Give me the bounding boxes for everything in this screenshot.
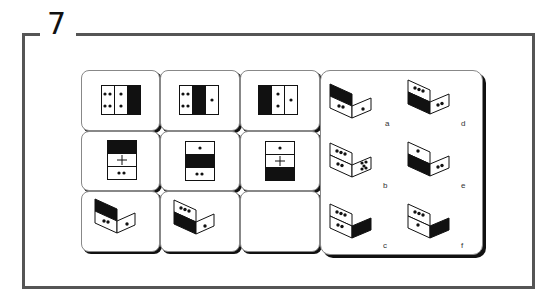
frame-top-right xyxy=(76,33,535,36)
option-b[interactable]: b xyxy=(325,135,405,195)
frame-left xyxy=(22,33,25,289)
folded-figure xyxy=(403,75,483,135)
option-label: e xyxy=(461,181,465,190)
answer-options-panel: a d b xyxy=(320,70,483,255)
option-f[interactable]: f xyxy=(403,193,483,253)
folded-figure xyxy=(325,135,405,195)
matrix-cell-r3c2 xyxy=(160,191,240,252)
option-a[interactable]: a xyxy=(325,75,405,135)
matrix-cell-r1c1 xyxy=(81,70,160,131)
frame-right xyxy=(532,33,535,289)
question-number: 7 xyxy=(47,8,66,40)
matrix-cell-r2c2 xyxy=(160,131,240,191)
option-label: f xyxy=(461,241,463,250)
option-c[interactable]: c xyxy=(325,193,405,253)
option-d[interactable]: d xyxy=(403,75,483,135)
strip-horizontal-figure xyxy=(241,71,321,132)
option-label: c xyxy=(383,241,387,250)
option-label: b xyxy=(383,181,387,190)
strip-vertical-figure xyxy=(161,132,241,192)
folded-figure xyxy=(325,75,405,135)
matrix-cell-r3c3-missing[interactable] xyxy=(240,191,320,252)
folded-figure xyxy=(403,193,483,253)
option-label: d xyxy=(461,119,465,128)
matrix-cell-r3c1 xyxy=(81,191,160,252)
matrix-cell-r2c1 xyxy=(81,131,160,191)
option-e[interactable]: e xyxy=(403,135,483,195)
option-label: a xyxy=(385,119,389,128)
folded-figure xyxy=(403,135,483,195)
matrix-cell-r2c3 xyxy=(240,131,320,191)
strip-vertical-figure xyxy=(82,132,161,192)
matrix-cell-r1c3 xyxy=(240,70,320,131)
strip-horizontal-figure xyxy=(161,71,241,132)
folded-figure xyxy=(325,193,405,253)
frame-bottom xyxy=(22,286,535,289)
folded-figure xyxy=(82,192,161,253)
strip-vertical-figure xyxy=(241,132,321,192)
folded-figure xyxy=(161,192,241,253)
matrix-cell-r1c2 xyxy=(160,70,240,131)
strip-horizontal-figure xyxy=(82,71,161,132)
